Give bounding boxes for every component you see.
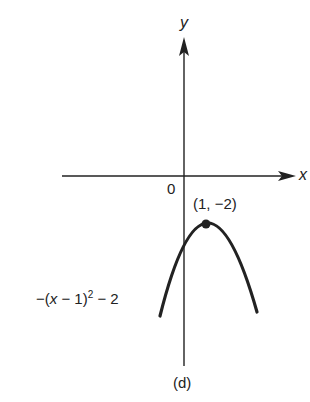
x-axis — [62, 171, 296, 181]
graph-canvas — [0, 0, 310, 402]
y-axis — [179, 37, 189, 366]
parabola-curve — [160, 223, 257, 316]
vertex-point — [202, 220, 211, 229]
origin-label: 0 — [167, 180, 175, 197]
curve-label: −(x − 1)2 − 2 — [36, 289, 119, 307]
vertex-label: (1, −2) — [193, 195, 237, 212]
y-axis-label: y — [180, 14, 188, 32]
x-axis-label: x — [299, 166, 307, 184]
curve-label-suffix: − 2 — [93, 290, 118, 307]
curve-label-mid: − 1) — [57, 290, 87, 307]
curve-label-prefix: −( — [36, 290, 50, 307]
figure-caption: (d) — [173, 374, 191, 391]
